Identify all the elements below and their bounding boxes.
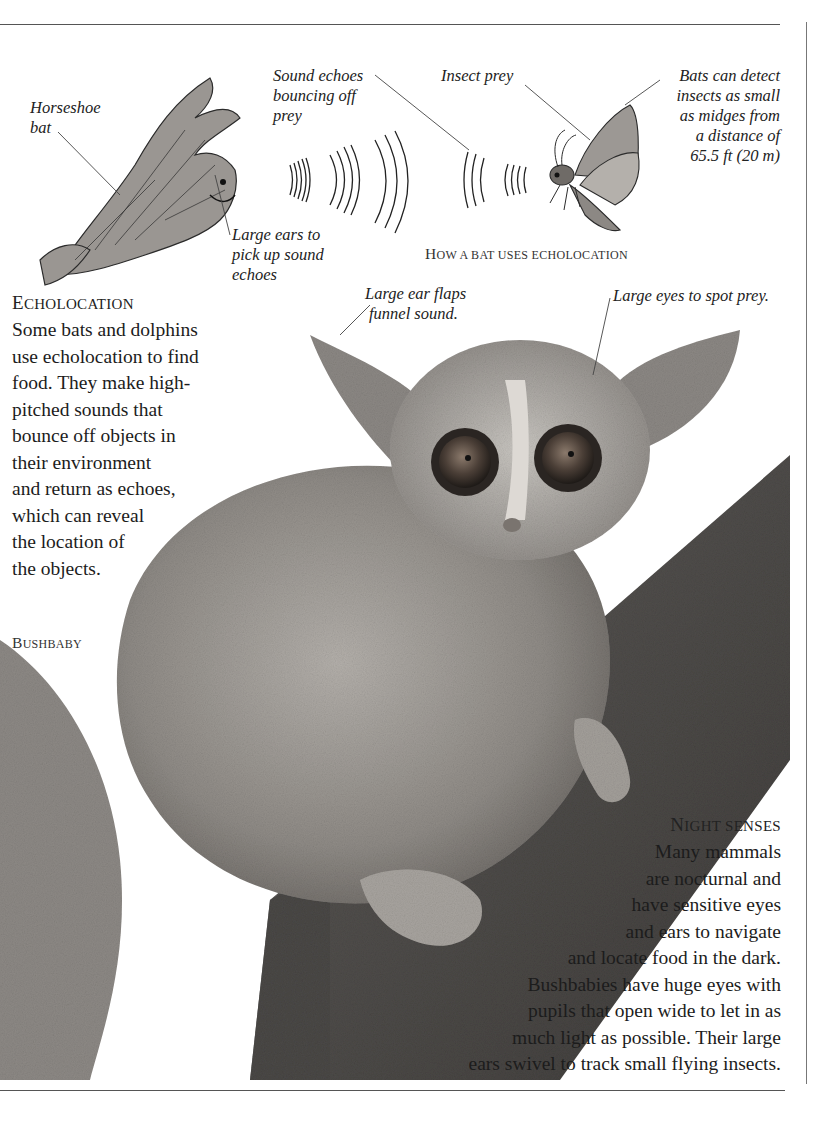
label-line: Large ears to — [232, 225, 324, 245]
moth-illustration — [540, 95, 650, 235]
body-line: Many mammals — [321, 839, 781, 866]
photo-caption: Bushbaby — [12, 634, 82, 652]
label-line: funnel sound. — [365, 304, 466, 324]
echolocation-section: Echolocation Some bats and dolphins use … — [12, 290, 199, 582]
body-line: food. They make high- — [12, 370, 199, 397]
body-line: and return as echoes, — [12, 476, 199, 503]
label-line: a distance of — [640, 126, 780, 146]
label-line: Horseshoe — [30, 98, 101, 118]
label-large-eyes: Large eyes to spot prey. — [613, 286, 769, 306]
label-large-ears: Large ears to pick up sound echoes — [232, 225, 324, 285]
label-line: Large eyes to spot prey. — [613, 286, 769, 306]
diagram-caption: How a bat uses echolocation — [425, 245, 628, 263]
body-line: which can reveal — [12, 503, 199, 530]
label-line: echoes — [232, 265, 324, 285]
top-rule — [0, 24, 780, 25]
body-line: Some bats and dolphins — [12, 317, 199, 344]
body-line: and ears to navigate — [321, 919, 781, 946]
label-line: insects as small — [640, 86, 780, 106]
night-senses-section: Night senses Many mammals are nocturnal … — [321, 812, 781, 1078]
body-line: and locate food in the dark. — [321, 945, 781, 972]
label-line: Sound echoes — [273, 66, 363, 86]
night-senses-heading: Night senses — [321, 812, 781, 839]
label-line: pick up sound — [232, 245, 324, 265]
echolocation-heading: Echolocation — [12, 290, 199, 317]
body-line: pitched sounds that — [12, 397, 199, 424]
label-line: 65.5 ft (20 m) — [640, 146, 780, 166]
label-sound-echoes: Sound echoes bouncing off prey — [273, 66, 363, 126]
label-line: Large ear flaps — [365, 284, 466, 304]
body-line: are nocturnal and — [321, 866, 781, 893]
body-line: the location of — [12, 529, 199, 556]
label-line: Insect prey — [441, 66, 513, 86]
body-line: use echolocation to find — [12, 344, 199, 371]
body-line: their environment — [12, 450, 199, 477]
label-ear-flaps: Large ear flaps funnel sound. — [365, 284, 466, 324]
label-insect-prey: Insect prey — [441, 66, 513, 86]
body-line: Bushbabies have huge eyes with — [321, 972, 781, 999]
body-line: bounce off objects in — [12, 423, 199, 450]
body-line: the objects. — [12, 556, 199, 583]
label-detect-distance: Bats can detect insects as small as midg… — [640, 66, 780, 166]
label-line: prey — [273, 106, 363, 126]
echolocation-body: Some bats and dolphins use echolocation … — [12, 317, 199, 582]
label-line: Bats can detect — [640, 66, 780, 86]
body-line: pupils that open wide to let in as — [321, 998, 781, 1025]
label-horseshoe-bat: Horseshoe bat — [30, 98, 101, 138]
body-line: much light as possible. Their large — [321, 1025, 781, 1052]
right-margin-rule — [806, 22, 807, 1084]
label-line: as midges from — [640, 106, 780, 126]
body-line: have sensitive eyes — [321, 892, 781, 919]
label-line: bat — [30, 118, 101, 138]
sound-wave-icon — [285, 125, 465, 235]
body-line: ears swivel to track small flying insect… — [321, 1051, 781, 1078]
night-senses-body: Many mammals are nocturnal and have sens… — [321, 839, 781, 1078]
bottom-rule — [0, 1090, 785, 1091]
label-line: bouncing off — [273, 86, 363, 106]
return-echo-icon — [462, 150, 542, 210]
